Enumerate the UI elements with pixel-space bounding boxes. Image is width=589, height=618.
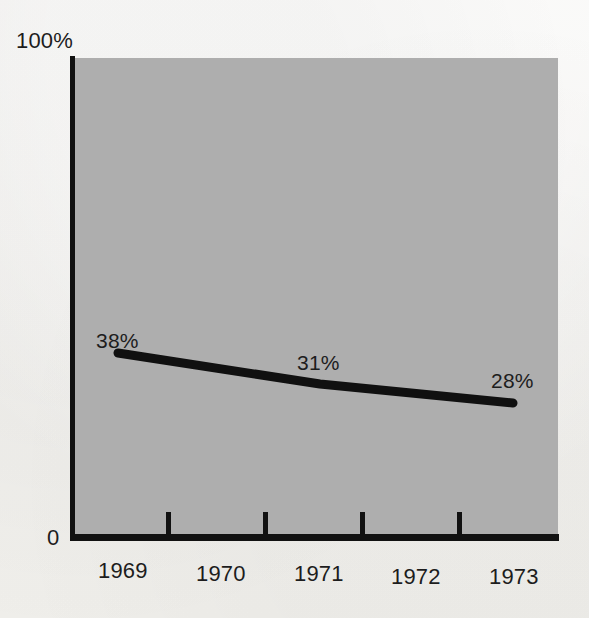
x-axis-tick-4 (457, 512, 462, 536)
plot-area-shading-overlay (74, 58, 558, 538)
x-axis-tick-label-1970: 1970 (196, 563, 246, 585)
x-axis-tick-label-1971: 1971 (294, 563, 344, 585)
x-axis-tick-label-1973: 1973 (489, 566, 539, 588)
data-point-label-1971: 31% (297, 352, 340, 373)
data-point-label-1973: 28% (491, 370, 534, 391)
x-axis-tick-label-1972: 1972 (391, 566, 441, 588)
x-axis-tick-2 (263, 512, 268, 536)
y-axis-line (70, 56, 75, 540)
chart-page: 100% 0 1969 1970 1971 1972 1973 38% 31% … (0, 0, 589, 618)
x-axis-tick-1 (166, 512, 171, 536)
y-axis-min-label: 0 (47, 527, 59, 549)
line-chart-graphic (0, 0, 589, 618)
y-axis-max-label: 100% (16, 30, 73, 52)
x-axis-line (70, 534, 559, 541)
x-axis-tick-label-1969: 1969 (98, 560, 148, 582)
x-axis-tick-3 (360, 512, 365, 536)
data-point-label-1969: 38% (96, 330, 139, 351)
